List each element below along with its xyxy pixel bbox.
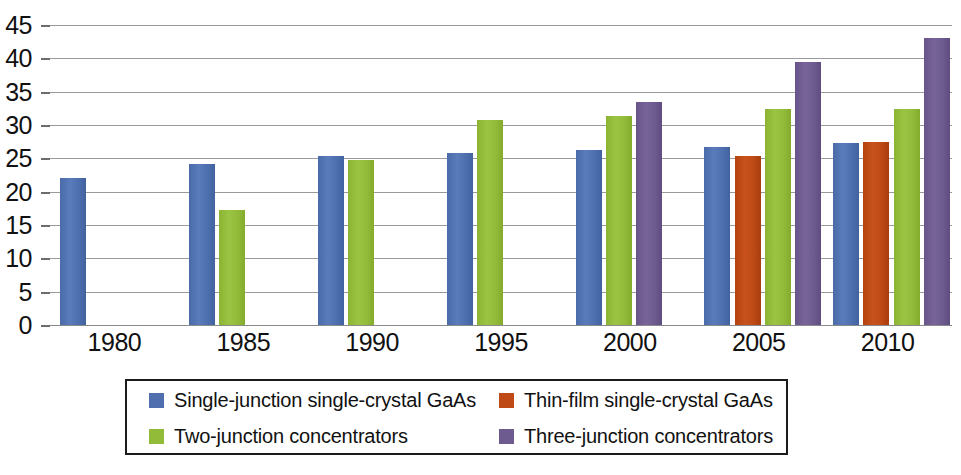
y-tick-mark: [41, 192, 50, 194]
bar: [863, 142, 889, 325]
bar: [894, 109, 920, 325]
y-tick-label: 20: [0, 180, 32, 205]
y-tick-mark: [41, 58, 50, 60]
y-tick-mark: [41, 92, 50, 94]
y-tick-mark: [41, 25, 50, 27]
y-tick-mark: [41, 258, 50, 260]
x-tick-label: 2005: [694, 330, 823, 355]
y-tick-label: 15: [0, 213, 32, 238]
y-tick-label: 25: [0, 146, 32, 171]
bar: [219, 210, 245, 325]
y-tick-label: 45: [0, 13, 32, 38]
bar: [704, 147, 730, 325]
bar: [189, 164, 215, 325]
y-tick-mark: [41, 225, 50, 227]
x-tick-label: 1990: [308, 330, 437, 355]
plot-area: [50, 25, 952, 325]
bar: [318, 156, 344, 325]
legend-swatch-icon: [149, 429, 164, 444]
legend-swatch-icon: [499, 429, 514, 444]
bar: [924, 38, 950, 325]
legend-item-label: Single-junction single-crystal GaAs: [174, 390, 476, 410]
y-tick-mark: [41, 325, 50, 327]
axis-baseline: [50, 325, 952, 326]
legend-swatch-icon: [499, 393, 514, 408]
x-tick-label: 1985: [179, 330, 308, 355]
legend-item-single-junction: Single-junction single-crystal GaAs: [149, 390, 476, 410]
legend-item-label: Two-junction concentrators: [174, 426, 408, 446]
bar: [636, 102, 662, 325]
x-axis: 1980198519901995200020052010: [50, 330, 952, 366]
legend-row: Single-junction single-crystal GaAs Thin…: [127, 381, 786, 419]
legend-item-thin-film: Thin-film single-crystal GaAs: [499, 390, 773, 410]
legend-item-two-junction: Two-junction concentrators: [149, 426, 408, 446]
y-tick-mark: [41, 292, 50, 294]
bar: [447, 153, 473, 325]
y-tick-mark: [41, 125, 50, 127]
bar: [348, 160, 374, 325]
y-tick-label: 0: [0, 313, 32, 338]
y-tick-label: 5: [0, 280, 32, 305]
x-tick-label: 1980: [50, 330, 179, 355]
bar: [606, 116, 632, 325]
bar: [576, 150, 602, 325]
legend-row: Two-junction concentrators Three-junctio…: [127, 417, 786, 455]
bar: [765, 109, 791, 325]
gridline: [50, 58, 952, 59]
y-tick-label: 35: [0, 80, 32, 105]
y-tick-mark: [41, 158, 50, 160]
bar: [735, 156, 761, 325]
x-tick-label: 2000: [565, 330, 694, 355]
bar-chart: 454035302520151050 198019851990199520002…: [0, 0, 961, 475]
x-tick-label: 1995: [437, 330, 566, 355]
legend-item-three-junction: Three-junction concentrators: [499, 426, 773, 446]
legend-item-label: Thin-film single-crystal GaAs: [524, 390, 773, 410]
bar: [60, 178, 86, 325]
gridline: [50, 25, 952, 26]
y-axis: 454035302520151050: [0, 25, 50, 325]
bar: [477, 120, 503, 325]
bar: [833, 143, 859, 325]
chart-legend: Single-junction single-crystal GaAs Thin…: [125, 379, 788, 455]
legend-swatch-icon: [149, 393, 164, 408]
y-tick-label: 30: [0, 113, 32, 138]
y-tick-label: 10: [0, 246, 32, 271]
bar: [795, 62, 821, 325]
x-tick-label: 2010: [823, 330, 952, 355]
y-tick-label: 40: [0, 46, 32, 71]
legend-item-label: Three-junction concentrators: [524, 426, 773, 446]
